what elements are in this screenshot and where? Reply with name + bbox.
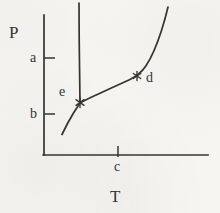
vaporization-curve	[80, 7, 168, 103]
triple-point-label: e	[59, 85, 65, 99]
tick-marks-group	[44, 58, 118, 157]
x-axis-label: T	[110, 188, 120, 205]
tick-label-a: a	[30, 51, 36, 65]
sublimation-curve	[62, 103, 80, 135]
y-axis-label: P	[9, 24, 18, 41]
tick-label-c: c	[114, 160, 120, 174]
tick-label-b: b	[30, 107, 37, 121]
fusion-curve	[79, 3, 80, 103]
axes-group	[43, 15, 208, 155]
phase-boundaries-group	[62, 3, 168, 135]
phase-diagram-figure: P T a b c e d	[0, 0, 220, 213]
critical-point-label: d	[146, 71, 153, 85]
